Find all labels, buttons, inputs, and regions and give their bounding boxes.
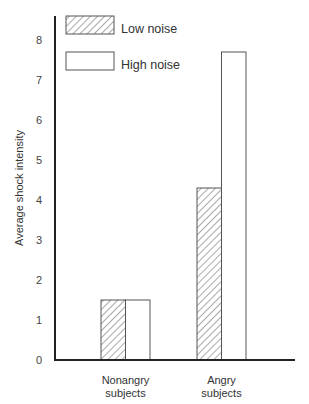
y-tick-label: 1: [36, 314, 42, 326]
legend-swatch-low-noise: [66, 16, 114, 34]
bar-low-noise-0: [101, 300, 126, 360]
bar-chart: 012345678 NonangrysubjectsAngrysubjects …: [0, 0, 309, 404]
bar-high-noise-1: [222, 52, 247, 360]
x-category-label: subjects: [105, 387, 146, 399]
y-axis-label: Average shock intensity: [13, 130, 25, 246]
bar-low-noise-1: [197, 188, 222, 360]
legend-swatch-high-noise: [66, 52, 114, 70]
bars-group: [101, 52, 246, 360]
y-axis-ticks: 012345678: [36, 34, 42, 366]
legend: Low noise High noise: [66, 16, 180, 72]
x-axis-labels: NonangrysubjectsAngrysubjects: [102, 374, 243, 399]
y-tick-label: 6: [36, 114, 42, 126]
x-category-label: subjects: [201, 387, 242, 399]
legend-label-low-noise: Low noise: [121, 22, 177, 36]
y-tick-label: 5: [36, 154, 42, 166]
y-tick-label: 2: [36, 274, 42, 286]
y-tick-label: 3: [36, 234, 42, 246]
y-tick-label: 4: [36, 194, 42, 206]
legend-label-high-noise: High noise: [121, 58, 180, 72]
x-category-label: Nonangry: [102, 374, 150, 386]
y-tick-label: 7: [36, 74, 42, 86]
bar-high-noise-0: [126, 300, 151, 360]
x-category-label: Angry: [207, 374, 236, 386]
y-tick-label: 8: [36, 34, 42, 46]
y-tick-label: 0: [36, 354, 42, 366]
